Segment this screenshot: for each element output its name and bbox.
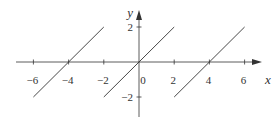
y-tick-label: 2	[128, 21, 134, 33]
x-axis-label: x	[264, 72, 271, 87]
x-tick-label: −2	[97, 74, 109, 86]
x-tick-label: −4	[62, 74, 74, 86]
x-axis-arrow-icon	[252, 59, 262, 65]
x-tick-label: 6	[241, 74, 247, 86]
x-tick-label: 4	[206, 74, 212, 86]
y-tick-label: −2	[121, 91, 133, 103]
y-axis-arrow-icon	[136, 10, 142, 20]
x-tick-label: −6	[27, 74, 39, 86]
axes	[16, 10, 262, 117]
y-axis-label: y	[125, 5, 133, 20]
x-tick-label: 2	[170, 74, 176, 86]
x-tick-label: 0	[140, 74, 146, 86]
tick-labels: −6−4−202462−2xy	[27, 5, 272, 103]
function-plot: −6−4−202462−2xy	[0, 0, 280, 124]
